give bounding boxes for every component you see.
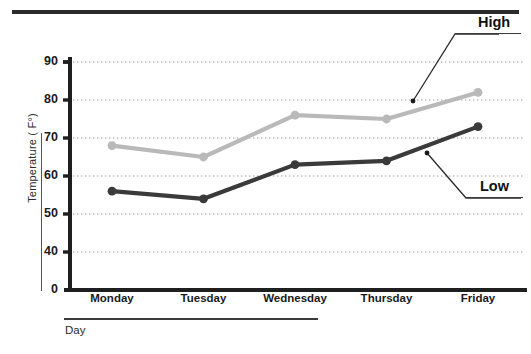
data-point-high-wednesday [291, 111, 300, 120]
x-axis-label: Day [65, 324, 85, 336]
x-axis-caption-rule [64, 318, 318, 320]
leader-line-high [413, 34, 499, 101]
series-label-low-rule [466, 197, 523, 198]
leader-dot-low [425, 151, 430, 156]
data-point-high-thursday [382, 115, 391, 124]
series-label-low: Low [480, 178, 509, 194]
chart-figure: Temperature ( F°) 0405060708090 MondayTu… [0, 0, 531, 354]
data-point-low-thursday [382, 156, 391, 165]
data-point-low-friday [474, 122, 483, 131]
leader-dot-high [411, 99, 416, 104]
data-point-high-tuesday [199, 153, 208, 162]
series-label-high-rule [455, 33, 521, 34]
series-label-high: High [478, 14, 510, 30]
data-point-high-monday [108, 141, 117, 150]
data-point-low-tuesday [199, 194, 208, 203]
data-point-low-wednesday [291, 160, 300, 169]
data-point-low-monday [108, 187, 117, 196]
data-point-high-friday [474, 88, 483, 97]
plot-area [0, 0, 531, 354]
